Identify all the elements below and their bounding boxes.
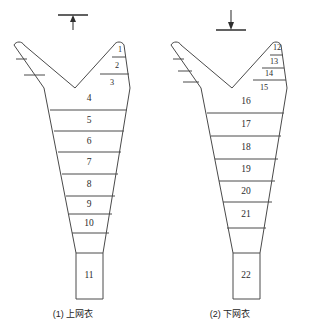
down-arrow-marker <box>216 10 246 30</box>
segment-label-6: 6 <box>87 136 92 146</box>
segment-label-19: 19 <box>241 164 251 174</box>
segment-label-12: 12 <box>273 43 281 52</box>
segment-label-18: 18 <box>241 142 251 152</box>
segment-label-5: 5 <box>87 115 92 125</box>
segment-label-14: 14 <box>265 69 273 78</box>
segment-label-21: 21 <box>241 209 251 219</box>
segment-label-11: 11 <box>84 270 93 280</box>
segment-label-16: 16 <box>241 96 251 106</box>
segment-label-10: 10 <box>84 218 94 228</box>
up-arrow-marker <box>58 15 88 30</box>
left-panel-upper-net: 1 2 3 4 5 6 7 8 9 10 11 (1) 上网衣 <box>14 15 130 319</box>
net-panel-diagram: 1 2 3 4 5 6 7 8 9 10 11 (1) 上网衣 <box>0 0 309 329</box>
left-panel-caption: (1) 上网衣 <box>53 308 94 319</box>
segment-label-15: 15 <box>260 83 268 92</box>
segment-label-7: 7 <box>87 157 92 167</box>
segment-label-4: 4 <box>87 93 92 103</box>
right-net-outline <box>171 42 287 299</box>
segment-label-3: 3 <box>110 78 114 87</box>
segment-label-9: 9 <box>87 199 92 209</box>
segment-label-13: 13 <box>270 57 278 66</box>
segment-label-22: 22 <box>241 270 251 280</box>
right-panel-caption: (2) 下网衣 <box>210 308 251 319</box>
right-panel-lower-net: 12 13 14 15 16 17 18 19 20 21 22 (2) 下网衣 <box>171 10 287 319</box>
segment-label-8: 8 <box>87 179 92 189</box>
segment-label-17: 17 <box>241 119 251 129</box>
segment-label-2: 2 <box>115 61 119 70</box>
diagram-canvas: 1 2 3 4 5 6 7 8 9 10 11 (1) 上网衣 <box>0 0 309 329</box>
segment-label-20: 20 <box>241 186 251 196</box>
segment-label-1: 1 <box>118 45 122 54</box>
